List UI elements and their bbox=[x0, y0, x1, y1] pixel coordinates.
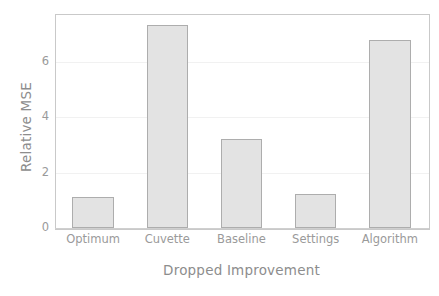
bar-slot bbox=[295, 15, 337, 228]
bar bbox=[221, 139, 263, 228]
bar-slot bbox=[147, 15, 189, 228]
x-axis-title: Dropped Improvement bbox=[55, 262, 428, 278]
bar bbox=[295, 194, 337, 228]
x-tick-label: Cuvette bbox=[130, 232, 204, 246]
bar-slot bbox=[72, 15, 114, 228]
x-tick-label: Baseline bbox=[204, 232, 278, 246]
bar-chart-figure: Relative MSE 0246 OptimumCuvetteBaseline… bbox=[0, 0, 439, 296]
x-tick-label: Settings bbox=[279, 232, 353, 246]
bar bbox=[147, 25, 189, 228]
bar-slot bbox=[221, 15, 263, 228]
bar-slot bbox=[369, 15, 411, 228]
x-tick-label: Algorithm bbox=[353, 232, 427, 246]
x-tick-label: Optimum bbox=[56, 232, 130, 246]
y-axis-title: Relative MSE bbox=[13, 7, 39, 247]
zero-baseline bbox=[55, 228, 429, 229]
bar bbox=[72, 197, 114, 228]
y-tick-label: 6 bbox=[36, 56, 49, 68]
y-tick-label: 4 bbox=[36, 111, 49, 123]
bar bbox=[369, 40, 411, 228]
bar-series bbox=[56, 15, 427, 228]
y-tick-label: 0 bbox=[36, 222, 49, 234]
y-tick-label: 2 bbox=[36, 167, 49, 179]
